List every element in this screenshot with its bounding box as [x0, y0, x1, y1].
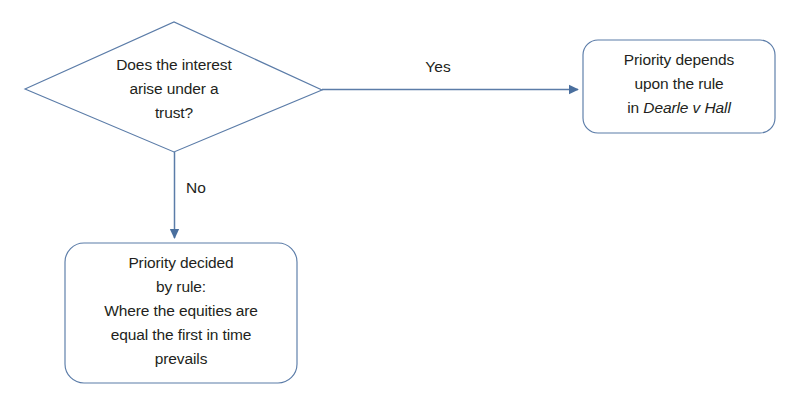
flowchart-graphics — [0, 0, 810, 407]
outcome-general-box — [65, 243, 297, 383]
edge-label-no: No — [186, 178, 226, 198]
outcome-trust-box — [583, 40, 775, 133]
decision-diamond — [25, 22, 322, 152]
edge-label-yes: Yes — [414, 57, 462, 77]
flowchart-canvas: Does the interest arise under a trust? Y… — [0, 0, 810, 407]
